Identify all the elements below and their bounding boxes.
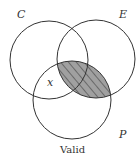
- label-p: P: [119, 128, 126, 141]
- caption-valid: Valid: [60, 144, 85, 155]
- label-e: E: [119, 8, 127, 21]
- label-c: C: [17, 8, 25, 21]
- label-x: x: [47, 76, 53, 89]
- venn-diagram: [0, 0, 137, 164]
